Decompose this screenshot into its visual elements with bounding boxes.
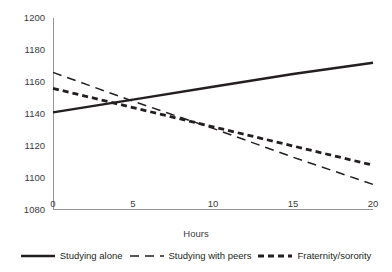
x-axis-title: Hours (0, 228, 392, 239)
y-axis-tick-label: 1200 (5, 13, 45, 23)
legend-item-label: Studying alone (60, 250, 123, 261)
legend-item-label: Fraternity/sorority (297, 250, 371, 261)
legend-item: Fraternity/sorority (258, 250, 371, 261)
x-axis-tick-label: 15 (278, 198, 308, 209)
legend-swatch-icon (130, 251, 164, 261)
y-axis-tick-label: 1100 (5, 173, 45, 183)
legend-swatch-icon (258, 251, 292, 261)
y-axis-tick-label: 1140 (5, 109, 45, 119)
legend-item: Studying alone (21, 250, 123, 261)
x-axis-tick-label: 10 (198, 198, 228, 209)
legend-swatch-icon (21, 251, 55, 261)
series-line (53, 63, 373, 113)
series-lines (53, 18, 373, 210)
legend-item-label: Studying with peers (169, 250, 252, 261)
y-axis-tick-label: 1180 (5, 45, 45, 55)
series-line (53, 72, 373, 184)
x-axis-tick-label: 0 (38, 198, 68, 209)
series-line (53, 88, 373, 165)
x-axis-tick-label: 5 (118, 198, 148, 209)
y-axis-tick-label: 1120 (5, 141, 45, 151)
x-axis-tick-label: 20 (358, 198, 388, 209)
y-axis-tick-label: 1160 (5, 77, 45, 87)
chart-legend: Studying aloneStudying with peersFratern… (0, 250, 392, 261)
legend-item: Studying with peers (130, 250, 252, 261)
line-chart: 1200118011601140112011001080 05101520 Ho… (0, 0, 392, 272)
